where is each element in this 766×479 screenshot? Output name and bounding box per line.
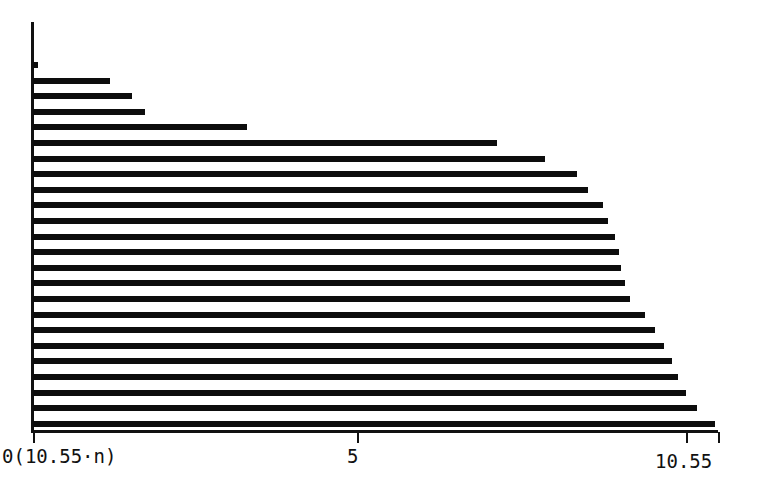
- bar: [33, 234, 615, 240]
- x-axis-tick-2: [686, 432, 688, 443]
- bar: [33, 171, 577, 177]
- plot-area: 0(10.55·n) 5 10.55: [0, 0, 766, 479]
- bar: [33, 187, 588, 193]
- x-tick-label-mid: 5: [347, 447, 358, 466]
- bar: [33, 140, 497, 146]
- bar: [33, 390, 686, 396]
- bar: [33, 78, 110, 84]
- bar: [33, 249, 619, 255]
- bar: [33, 312, 645, 318]
- bar-chart-figure: 0(10.55·n) 5 10.55: [0, 0, 766, 479]
- bar: [33, 156, 545, 162]
- bar: [33, 343, 664, 349]
- bar: [33, 265, 621, 271]
- bar: [33, 405, 697, 411]
- bar: [33, 296, 630, 302]
- bar: [33, 124, 247, 130]
- x-tick-label-zero: 0(10.55·n): [2, 447, 116, 466]
- bar: [33, 374, 678, 380]
- x-axis-tick-1: [357, 432, 359, 443]
- bar: [33, 62, 38, 68]
- bar: [33, 202, 603, 208]
- x-axis-line: [31, 430, 718, 433]
- x-axis-tick-3: [718, 432, 720, 443]
- x-tick-label-max: 10.55: [655, 452, 712, 471]
- bar: [33, 421, 715, 427]
- bar: [33, 218, 608, 224]
- bar: [33, 280, 625, 286]
- bar: [33, 327, 655, 333]
- y-axis-line: [31, 22, 34, 433]
- bar: [33, 109, 145, 115]
- bar: [33, 358, 672, 364]
- x-axis-tick-0: [33, 432, 35, 443]
- bar: [33, 93, 132, 99]
